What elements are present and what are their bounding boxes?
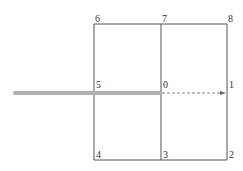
- label-0: 0: [163, 79, 168, 90]
- label-2: 2: [229, 149, 234, 160]
- label-7: 7: [162, 13, 167, 24]
- label-6: 6: [95, 13, 100, 24]
- label-4: 4: [96, 149, 101, 160]
- label-8: 8: [228, 13, 233, 24]
- label-5: 5: [96, 79, 101, 90]
- label-3: 3: [163, 149, 168, 160]
- arrowhead-icon: [220, 91, 226, 95]
- grid-diagram: 6 7 8 5 0 1 4 3 2: [0, 0, 243, 171]
- label-1: 1: [229, 79, 234, 90]
